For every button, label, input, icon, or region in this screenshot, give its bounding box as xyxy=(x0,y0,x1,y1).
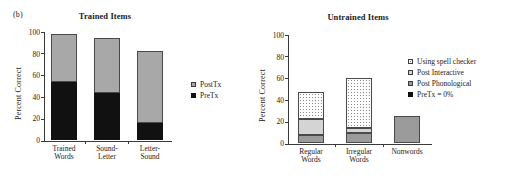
chart-trained-items: Trained Items Percent Correct 100 80 60 … xyxy=(0,0,257,180)
legend-row-posttx: PostTx xyxy=(191,80,221,89)
legend-label-post-phonological: Post Phonological xyxy=(417,80,471,88)
y-tick-80-trained: 80 xyxy=(18,51,40,59)
x-label-regular-words: Regular Words xyxy=(287,148,335,164)
bar-segment-post-phonological-nonwords xyxy=(394,116,420,143)
x-label-letter-sound: Letter- Sound xyxy=(126,145,174,161)
x-label-line2-irregular-words: Words xyxy=(335,156,383,164)
bar-segment-posttx-trained-words xyxy=(51,34,77,82)
x-tickmark-2-untrained xyxy=(383,144,384,147)
legend-swatch-posttx xyxy=(191,82,196,87)
bar-segment-post-phonological-regular-words xyxy=(298,135,324,144)
legend-label-posttx: PostTx xyxy=(200,81,221,89)
legend-swatch-spellchecker xyxy=(408,59,413,64)
x-label-line2-regular-words: Words xyxy=(287,156,335,164)
y-tick-20-trained: 20 xyxy=(18,115,40,123)
x-label-trained-words: Trained Words xyxy=(40,145,88,161)
y-axis-untrained xyxy=(288,35,289,144)
bar-irregular-words xyxy=(346,78,372,143)
x-label-nonwords: Nonwords xyxy=(383,148,431,156)
legend-swatch-post-interactive xyxy=(408,70,413,75)
y-tickmark-60-trained xyxy=(41,75,44,76)
x-tickmark-2-trained xyxy=(128,141,129,144)
figure-panel-b: (b) Trained Items Percent Correct 100 80… xyxy=(0,0,514,180)
x-label-line1-nonwords: Nonwords xyxy=(383,148,431,156)
bar-segment-spellchecker-regular-words xyxy=(298,92,324,119)
x-axis-trained xyxy=(44,141,172,142)
x-tickmark-1-untrained xyxy=(335,144,336,147)
y-tickmark-100-untrained xyxy=(285,35,288,36)
bar-segment-pretx-letter-sound xyxy=(137,123,163,140)
legend-row-post-phonological: Post Phonological xyxy=(408,79,476,88)
legend-row-spellchecker: Using spell checker xyxy=(408,57,476,66)
y-tick-0-trained: 0 xyxy=(18,137,40,145)
y-tickmark-80-trained xyxy=(41,53,44,54)
legend-row-pretx: PreTx xyxy=(191,91,221,100)
y-tick-80-untrained: 80 xyxy=(262,54,284,62)
y-tickmark-0-untrained xyxy=(285,144,288,145)
x-label-line2-sound-letter: Letter xyxy=(83,153,131,161)
y-tick-20-untrained: 20 xyxy=(262,118,284,126)
y-tick-60-untrained: 60 xyxy=(262,75,284,83)
legend-label-spellchecker: Using spell checker xyxy=(417,58,476,66)
y-tick-60-trained: 60 xyxy=(18,72,40,80)
bar-segment-pretx-trained-words xyxy=(51,82,77,140)
y-tickmark-40-trained xyxy=(41,97,44,98)
y-axis-trained xyxy=(44,32,45,141)
bar-segment-post-phonological-irregular-words xyxy=(346,133,372,144)
y-tickmark-20-trained xyxy=(41,119,44,120)
y-axis-label-untrained: Percent Correct xyxy=(258,52,267,122)
x-label-irregular-words: Irregular Words xyxy=(335,148,383,164)
legend-label-post-interactive: Post Interactive xyxy=(417,69,464,77)
legend-swatch-pretx-zero xyxy=(408,92,413,97)
chart-title-trained: Trained Items xyxy=(40,11,170,21)
y-tick-0-untrained: 0 xyxy=(262,140,284,148)
bar-sound-letter xyxy=(94,38,120,141)
bar-segment-posttx-letter-sound xyxy=(137,51,163,124)
legend-label-pretx-zero: PreTx = 0% xyxy=(417,91,453,99)
chart-title-untrained: Untrained Items xyxy=(293,12,423,22)
bar-trained-words xyxy=(51,34,77,140)
bar-segment-spellchecker-irregular-words xyxy=(346,78,372,128)
legend-swatch-post-phonological xyxy=(408,81,413,86)
x-label-sound-letter: Sound- Letter xyxy=(83,145,131,161)
bar-segment-pretx-sound-letter xyxy=(94,93,120,141)
y-axis-label-trained: Percent Correct xyxy=(14,50,23,120)
x-axis-untrained xyxy=(288,144,432,145)
y-tick-40-trained: 40 xyxy=(18,94,40,102)
bar-regular-words xyxy=(298,92,324,143)
x-label-line2-letter-sound: Sound xyxy=(126,153,174,161)
legend-row-pretx-zero: PreTx = 0% xyxy=(408,90,476,99)
legend-trained-items: PostTx PreTx xyxy=(191,80,221,102)
y-tickmark-20-untrained xyxy=(285,122,288,123)
legend-label-pretx: PreTx xyxy=(200,92,218,100)
legend-row-post-interactive: Post Interactive xyxy=(408,68,476,77)
x-label-line2-trained-words: Words xyxy=(40,153,88,161)
bar-segment-post-interactive-regular-words xyxy=(298,119,324,134)
bar-letter-sound xyxy=(137,51,163,141)
bar-nonwords xyxy=(394,116,420,143)
chart-untrained-items: Untrained Items Percent Correct 100 80 6… xyxy=(251,0,514,180)
x-tickmark-1-trained xyxy=(85,141,86,144)
y-tickmark-0-trained xyxy=(41,141,44,142)
bar-segment-posttx-sound-letter xyxy=(94,38,120,93)
legend-untrained-items: Using spell checker Post Interactive Pos… xyxy=(408,57,476,101)
y-tick-100-untrained: 100 xyxy=(262,32,284,40)
legend-swatch-pretx xyxy=(191,93,196,98)
y-tickmark-80-untrained xyxy=(285,56,288,57)
y-tick-100-trained: 100 xyxy=(18,29,40,37)
y-tickmark-60-untrained xyxy=(285,78,288,79)
y-tickmark-100-trained xyxy=(41,32,44,33)
y-tick-40-untrained: 40 xyxy=(262,97,284,105)
y-tickmark-40-untrained xyxy=(285,100,288,101)
